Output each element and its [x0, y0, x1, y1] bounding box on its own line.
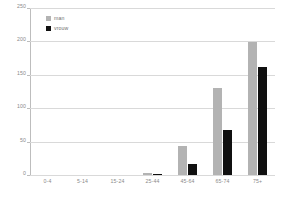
bar-group: [135, 8, 170, 175]
x-tick-label: 15-24: [100, 178, 135, 192]
legend-label-vrouw: vrouw: [54, 25, 68, 31]
legend-swatch-man-icon: [46, 16, 51, 21]
bar-vrouw: [153, 174, 162, 175]
bar-group: [240, 8, 275, 175]
bar-vrouw: [188, 164, 197, 175]
bar-group: [170, 8, 205, 175]
x-axis-labels: 0-45-1415-2425-4445-6465-7475+: [30, 178, 275, 192]
bar-chart: 050100150200250 0-45-1415-2425-4445-6465…: [0, 0, 281, 202]
x-tick-label: 45-64: [170, 178, 205, 192]
legend-item-vrouw: vrouw: [46, 24, 68, 32]
bar-man: [248, 42, 257, 175]
y-tick-mark: [27, 175, 30, 176]
bar-vrouw: [258, 67, 267, 175]
bar-man: [213, 88, 222, 176]
bar-group: [65, 8, 100, 175]
legend-item-man: man: [46, 14, 68, 22]
bar-group: [205, 8, 240, 175]
gridline: 0: [30, 175, 275, 176]
legend-label-man: man: [54, 15, 64, 21]
x-tick-label: 0-4: [30, 178, 65, 192]
y-tick-label: 200: [17, 36, 26, 42]
bar-group: [100, 8, 135, 175]
y-tick-label: 250: [17, 3, 26, 9]
bar-man: [178, 146, 187, 175]
y-tick-label: 50: [20, 137, 26, 143]
legend-swatch-vrouw-icon: [46, 26, 51, 31]
bar-vrouw: [223, 130, 232, 175]
x-tick-label: 75+: [240, 178, 275, 192]
y-tick-label: 0: [23, 170, 26, 176]
x-tick-label: 5-14: [65, 178, 100, 192]
legend: man vrouw: [46, 14, 68, 34]
x-tick-label: 65-74: [205, 178, 240, 192]
y-tick-label: 100: [17, 103, 26, 109]
y-tick-label: 150: [17, 70, 26, 76]
x-tick-label: 25-44: [135, 178, 170, 192]
bar-man: [143, 173, 152, 175]
